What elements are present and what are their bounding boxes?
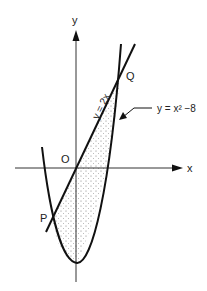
point-q-label: Q <box>126 70 135 82</box>
y-axis-arrow-icon <box>73 30 80 41</box>
y-axis-label: y <box>72 14 78 26</box>
point-p-label: P <box>40 212 47 224</box>
shaded-region <box>52 78 120 262</box>
leader-arrow-icon <box>119 112 127 120</box>
parabola-equation-label: y = x² −8 <box>157 103 196 114</box>
x-axis-arrow-icon <box>172 165 183 172</box>
origin-label: O <box>61 153 70 165</box>
x-axis-label: x <box>187 162 193 174</box>
area-between-curves-diagram: y x O P Q y = x² −8 y = 2x <box>0 0 207 291</box>
